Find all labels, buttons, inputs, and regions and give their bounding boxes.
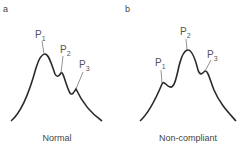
peak-label-p3: P3 (79, 59, 90, 72)
panel-b: b P1 P2 P3 Non-compliant (125, 4, 236, 143)
waveform-diagram: a P1 P2 P3 Normal b P1 P2 P3 Non-complia… (0, 0, 243, 151)
peak-label-p3: P3 (207, 49, 218, 62)
p1-leader-line (161, 70, 162, 83)
peak-label-p1: P1 (35, 29, 46, 42)
panel-letter-b: b (125, 4, 130, 14)
caption-normal: Normal (42, 133, 71, 143)
panel-letter-a: a (3, 4, 8, 14)
caption-non-compliant: Non-compliant (159, 133, 218, 143)
p2-leader-line (186, 39, 187, 50)
peak-label-p1: P1 (155, 57, 166, 70)
p3-leader-line (205, 60, 211, 71)
peak-label-p2: P2 (60, 44, 71, 57)
peak-label-p2: P2 (180, 26, 191, 39)
panel-a: a P1 P2 P3 Normal (3, 4, 102, 143)
p3-leader-line (76, 72, 83, 89)
p2-leader-line (61, 56, 63, 73)
p1-leader-line (42, 41, 44, 54)
